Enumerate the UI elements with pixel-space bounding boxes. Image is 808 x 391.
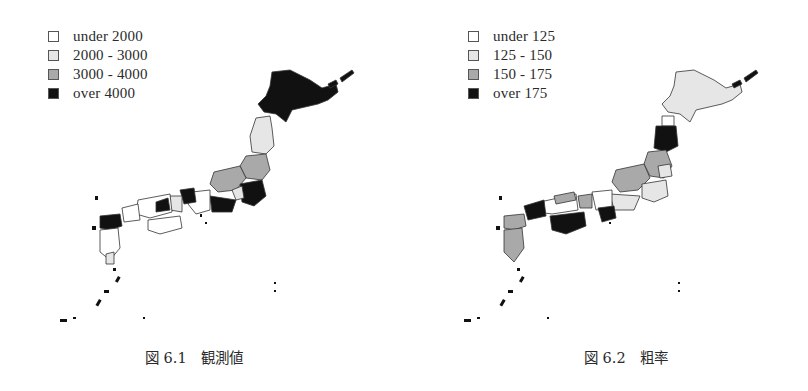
- swatch-3000-4000: [48, 69, 59, 80]
- legend-label: over 175: [493, 85, 548, 102]
- figure-6-2: under 125 125 - 150 150 - 175 over 175 図…: [404, 0, 808, 391]
- region-hokkaido: [258, 70, 338, 122]
- swatch-2000-3000: [48, 50, 59, 61]
- swatch-over-175: [468, 88, 479, 99]
- region-hokkaido: [662, 70, 742, 122]
- legend-label: under 125: [493, 28, 555, 45]
- legend-item: over 4000: [48, 84, 148, 103]
- legend-item: over 175: [468, 84, 555, 103]
- figure-caption: 図 6.1 観測値: [145, 346, 243, 367]
- figure-caption: 図 6.2 粗率: [584, 346, 668, 367]
- swatch-under-125: [468, 31, 479, 42]
- legend-item: under 125: [468, 27, 555, 46]
- legend-label: under 2000: [73, 28, 143, 45]
- legend-item: 2000 - 3000: [48, 46, 148, 65]
- legend-item: 3000 - 4000: [48, 65, 148, 84]
- legend: under 2000 2000 - 3000 3000 - 4000 over …: [48, 27, 148, 103]
- swatch-150-175: [468, 69, 479, 80]
- region-kanto: [240, 180, 266, 206]
- swatch-over-4000: [48, 88, 59, 99]
- legend-label: 150 - 175: [493, 66, 552, 83]
- japan-map-crude-rate: [404, 0, 808, 391]
- region-tohoku-north: [250, 116, 274, 154]
- legend-label: over 4000: [73, 85, 135, 102]
- legend-label: 3000 - 4000: [73, 66, 148, 83]
- legend-label: 2000 - 3000: [73, 47, 148, 64]
- legend: under 125 125 - 150 150 - 175 over 175: [468, 27, 555, 103]
- figure-6-1: under 2000 2000 - 3000 3000 - 4000 over …: [0, 0, 404, 391]
- legend-item: 150 - 175: [468, 65, 555, 84]
- region-tohoku-north: [654, 126, 678, 152]
- legend-item: 125 - 150: [468, 46, 555, 65]
- swatch-under-2000: [48, 31, 59, 42]
- legend-item: under 2000: [48, 27, 148, 46]
- swatch-125-150: [468, 50, 479, 61]
- legend-label: 125 - 150: [493, 47, 552, 64]
